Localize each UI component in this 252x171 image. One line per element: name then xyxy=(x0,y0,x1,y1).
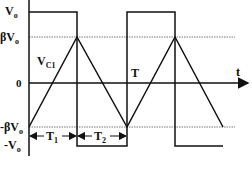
vo-label: Vo xyxy=(5,4,18,20)
zero-label: 0 xyxy=(16,77,22,89)
vc1-label: VC1 xyxy=(37,54,55,70)
neg-vo-label: -Vo xyxy=(4,138,21,154)
neg-beta-vo-label: -βVo xyxy=(0,120,23,136)
waveform-diagram: Vo βVo 0 -βVo -Vo VC1 T t T1 T2 xyxy=(0,0,252,171)
time-axis-label: t xyxy=(236,65,240,79)
beta-vo-label: βVo xyxy=(0,30,19,46)
period-label: T xyxy=(131,66,139,80)
triangle-wave-vc1 xyxy=(29,37,223,127)
